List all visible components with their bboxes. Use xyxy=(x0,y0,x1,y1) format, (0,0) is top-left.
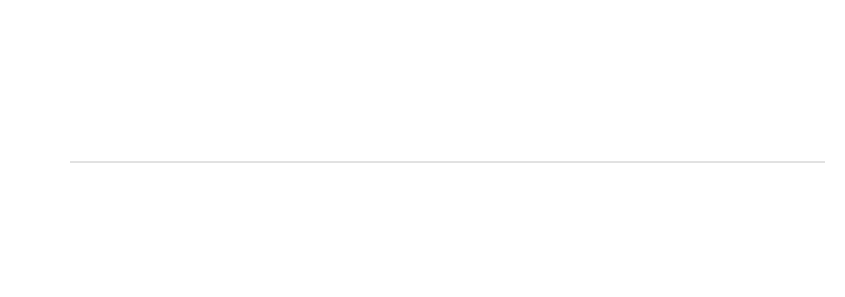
waveform-canvas xyxy=(0,0,845,297)
